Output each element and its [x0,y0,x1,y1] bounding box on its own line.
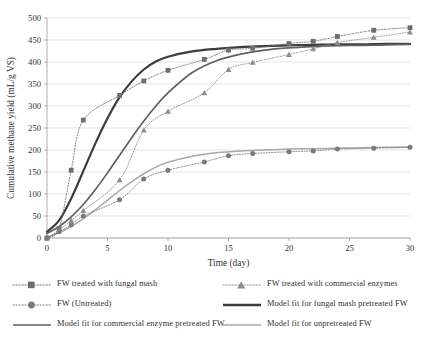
data-point-marker [202,159,207,164]
data-point-marker [250,151,255,156]
legend-label: FW treated with commercial enzymes [267,279,398,288]
data-point-marker [311,39,316,44]
data-point-marker [166,168,171,173]
solid-line-icon [12,317,52,329]
legend-item-fungal-mash: FW treated with fungal mash [12,276,157,290]
x-tick-label: 0 [45,243,49,253]
series-line [47,44,410,232]
y-tick-label: 200 [28,145,41,155]
data-point-marker [371,28,376,33]
data-point-marker [226,153,231,158]
legend-item-model-commercial-enzyme: Model fit for commercial enzyme pretreat… [12,316,225,330]
legend-item-model-unpretreated: Model fit for unpretreated FW [222,316,372,330]
legend-label: Model fit for unpretreated FW [267,319,372,328]
y-tick-label: 450 [28,35,41,45]
y-tick-label: 50 [32,211,41,221]
data-point-marker [141,79,146,84]
dotted-triangle-marker-icon [222,277,262,289]
dotted-circle-marker-icon [12,297,52,309]
x-tick-label: 15 [224,243,233,253]
data-point-marker [166,68,171,73]
data-point-marker [287,149,292,154]
series-line [47,147,410,237]
y-tick-label: 100 [28,189,41,199]
y-tick-label: 400 [28,57,41,67]
data-point-marker [117,93,122,98]
data-point-marker [202,57,207,62]
y-tick-label: 250 [28,123,41,133]
data-point-marker [141,177,146,182]
data-point-marker [69,168,74,173]
y-axis-title: Cumulative methane yield (mL/g VS) [6,57,17,199]
data-point-marker [226,67,232,72]
data-point-marker [117,197,122,202]
data-point-marker [335,147,340,152]
legend-label: FW treated with fungal mash [57,279,157,288]
legend-label: FW (Untreated) [57,299,112,308]
thin-solid-line-icon [222,317,262,329]
data-point-marker [81,214,86,219]
y-tick-label: 350 [28,79,41,89]
data-point-marker [69,222,74,227]
dotted-square-marker-icon [12,277,52,289]
x-tick-label: 10 [164,243,173,253]
thick-solid-line-icon [222,297,262,309]
legend-item-model-fungal-mash: Model fit for fungal mash pretreated FW [222,296,408,310]
x-tick-label: 30 [406,243,415,253]
y-tick-label: 300 [28,101,41,111]
data-point-marker [117,177,123,182]
y-tick-label: 150 [28,167,41,177]
x-tick-label: 20 [285,243,294,253]
data-point-marker [408,145,413,150]
chart-legend: FW treated with fungal mash FW treated w… [0,272,421,343]
data-point-marker [371,146,376,151]
y-tick-label: 500 [28,13,41,23]
x-axis-title: Time (day) [208,258,250,269]
figure-container: 0501001502002503003504004505000510152025… [0,0,421,343]
methane-yield-chart: 0501001502002503003504004505000510152025… [0,0,421,275]
data-point-marker [165,108,171,113]
data-point-marker [226,48,231,53]
legend-label: Model fit for commercial enzyme pretreat… [57,319,225,328]
data-point-marker [81,118,86,123]
x-tick-label: 25 [345,243,354,253]
data-point-marker [335,34,340,39]
data-point-marker [57,229,62,234]
data-point-marker [45,236,50,241]
legend-label: Model fit for fungal mash pretreated FW [267,299,408,308]
data-point-marker [287,41,292,46]
x-tick-label: 5 [105,243,109,253]
data-point-marker [250,46,255,51]
data-point-marker [201,90,207,95]
legend-item-untreated: FW (Untreated) [12,296,112,310]
data-point-marker [311,148,316,153]
series-dotted-line [47,32,410,238]
legend-item-commercial-enzymes: FW treated with commercial enzymes [222,276,398,290]
y-tick-label: 0 [37,233,41,243]
series-dotted-line [47,147,410,238]
